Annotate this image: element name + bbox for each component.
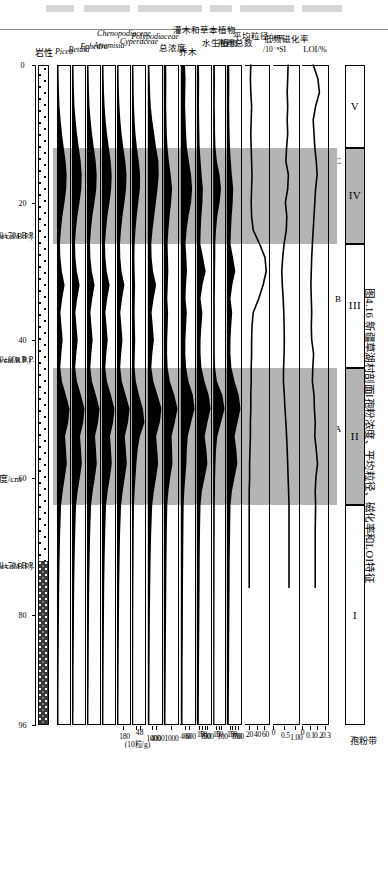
curve-mean_grain_size (243, 65, 271, 725)
tick-arbor-0 (185, 726, 186, 730)
tick-LOI-2 (318, 726, 319, 730)
depth-tick-40 (32, 340, 36, 341)
axis-label-picea: Picea (57, 31, 71, 61)
depth-tick-60 (32, 478, 36, 479)
page-header-ghost (40, 2, 360, 16)
axis-label-LOI: LOI/% (308, 31, 322, 61)
curve-pollen_total (225, 65, 242, 725)
lithology-strip (38, 65, 49, 725)
curve-aquatic_plants (211, 65, 226, 725)
tick-pollen_total-3 (238, 726, 239, 730)
curve-total_concentration (162, 65, 179, 725)
curve-betula (70, 65, 86, 725)
radiocarbon-date-1: 1210±70a B.P.(1140±100a cal.B.P.) (0, 230, 16, 244)
pollen-zone-label: I (353, 609, 357, 621)
figure-page: VIVIIIIII孢粉带CBALOI/%00.10.20.3低频磁化率/10⁻⁸… (0, 0, 388, 870)
radiocarbon-date-2: 1420±60a B.P.(1310±30a cal.B.P.) (0, 354, 16, 368)
tick-magnetic_susceptibility-2 (295, 726, 296, 730)
tick-label-aquatic_plants-2: 100 (215, 731, 229, 753)
figure-caption: 图4.16 新疆草湖村剖面I孢粉浓度、平均粒径、磁化率和LOI特征 (358, 0, 384, 870)
subzone-label: B (335, 294, 341, 304)
date-calibrated: (3000±135a cal.B.P.) (0, 562, 33, 572)
tick-label-mean_grain_size-2: 60 (258, 731, 272, 753)
lithology-segment-sandy-dotted (39, 66, 48, 561)
depth-tick-20 (32, 203, 36, 204)
concentration-unit-label: (10粒/g) (131, 731, 145, 765)
axis-label-betula: Betula (72, 31, 86, 61)
curve-magnetic_susceptibility (271, 65, 300, 725)
lithology-label: 岩性 (37, 35, 51, 61)
tick-label-total_concentration-0: 1000 (165, 731, 179, 753)
curve-arbor (178, 65, 195, 725)
depth-tick-label-0: 0 (15, 56, 31, 74)
tick-polypodiaceae-0 (152, 726, 153, 730)
tick-pollen_total-2 (235, 726, 236, 730)
curve-ephedra (85, 65, 101, 725)
date-calibrated: (1310±30a cal.B.P.) (0, 356, 31, 366)
pollen-diagram: VIVIIIIII孢粉带CBALOI/%00.10.20.3低频磁化率/10⁻⁸… (21, 25, 367, 845)
depth-tick-label-96: 96 (15, 716, 31, 734)
subzone-B: B (332, 291, 344, 307)
tick-label-magnetic_susceptibility-2: 1.00 (289, 731, 303, 753)
tick-label-polypodiaceae-1: 4000 (150, 731, 164, 753)
tick-chenopodiaceae-0 (123, 726, 124, 730)
tick-magnetic_susceptibility-1 (284, 726, 285, 730)
depth-tick-label-20: 20 (15, 194, 31, 212)
depth-tick-80 (32, 615, 36, 616)
depth-axis-title: 深度/cm (0, 462, 14, 496)
depth-axis-line (35, 65, 36, 725)
curve-shrub_herb (195, 65, 212, 725)
depth-tick-label-40: 40 (15, 331, 31, 349)
tick-LOI-1 (310, 726, 311, 730)
tick-label-pollen_total-3: 700 (232, 731, 246, 753)
tick-polypodiaceae-1 (156, 726, 157, 730)
curve-picea (55, 65, 71, 725)
tick-aquatic_plants-2 (221, 726, 222, 730)
depth-tick-96 (32, 725, 36, 726)
curve-polypodiaceae (146, 65, 163, 725)
curve-LOI (300, 65, 329, 725)
tick-arbor-1 (189, 726, 190, 730)
tick-label-LOI-3: 0.3 (319, 731, 333, 753)
axis-label-shrub_herb: 灌木和草本植物 (197, 31, 211, 61)
tick-label-shrub_herb-3: 500 (201, 731, 215, 753)
depth-tick-label-80: 80 (15, 606, 31, 624)
radiocarbon-date-3: 2890±70a B.P.(3000±135a cal.B.P.) (0, 560, 16, 574)
curve-chenopodiaceae (115, 65, 131, 725)
date-calibrated: (1140±100a cal.B.P.) (0, 232, 33, 242)
figure-caption-text: 图4.16 新疆草湖村剖面I孢粉浓度、平均粒径、磁化率和LOI特征 (364, 287, 379, 582)
tick-label-arbor-1: 600 (183, 731, 197, 753)
curve-artemisia (100, 65, 116, 725)
curve-cyperaceae (130, 65, 146, 725)
depth-tick-0 (32, 65, 36, 66)
tick-total_concentration-0 (171, 726, 172, 730)
tick-LOI-3 (325, 726, 326, 730)
tick-shrub_herb-3 (207, 726, 208, 730)
lithology-segment-dark-silt (39, 561, 48, 725)
tick-shrub_herb-2 (205, 726, 206, 730)
